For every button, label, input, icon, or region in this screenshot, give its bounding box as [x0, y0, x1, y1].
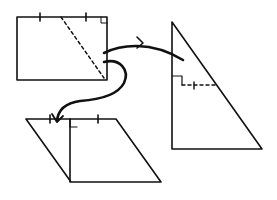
right-triangle-shape — [172, 22, 262, 149]
diagram-canvas — [0, 0, 277, 200]
parallelogram-outline — [26, 119, 161, 182]
parallelogram-shape — [26, 115, 161, 182]
right-angle-marker — [172, 76, 182, 85]
rectangle-shape — [17, 13, 107, 80]
rectangle-outline — [17, 17, 107, 80]
arrow-rectangle-to-triangle — [104, 37, 183, 60]
arrow-rectangle-to-parallelogram — [52, 61, 126, 122]
triangle-outline — [172, 22, 262, 149]
curved-arrow-path — [104, 46, 183, 60]
curved-arrow-path — [57, 61, 126, 121]
right-angle-marker — [70, 119, 77, 127]
dashed-diagonal-cut — [61, 17, 104, 78]
right-angle-marker — [101, 17, 107, 23]
geometry-diagram — [0, 0, 277, 200]
